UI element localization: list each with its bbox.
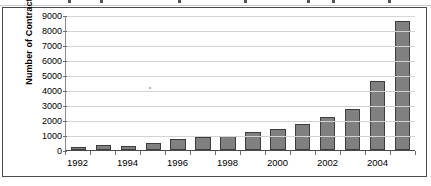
- x-axis-tick: [390, 151, 391, 155]
- bar: [96, 145, 111, 150]
- crop-mark: [244, 0, 247, 3]
- y-axis-tick: [63, 106, 67, 107]
- bar-slot: [116, 16, 141, 150]
- bar: [245, 132, 260, 150]
- x-axis-tick: [90, 151, 91, 155]
- bar-slot: [66, 16, 91, 150]
- x-axis-tick: [290, 151, 291, 155]
- x-tick-label: 2002: [308, 157, 348, 168]
- x-axis-tick: [365, 151, 366, 155]
- y-axis-tick: [63, 136, 67, 137]
- bar: [195, 137, 210, 150]
- plot-area: [65, 16, 415, 151]
- x-axis-tick: [415, 151, 416, 155]
- x-axis-tick-labels: 1992199419961998200020022004: [65, 157, 415, 171]
- bar: [345, 109, 360, 150]
- y-tick-label: 7000: [20, 42, 62, 51]
- bar-slot: [216, 16, 241, 150]
- crop-mark: [68, 0, 71, 3]
- x-axis-tick: [215, 151, 216, 155]
- y-axis-tick: [63, 31, 67, 32]
- x-axis-tick: [165, 151, 166, 155]
- y-axis-tick: [63, 46, 67, 47]
- crop-mark: [100, 0, 103, 3]
- crop-mark: [332, 0, 335, 3]
- x-axis-tick: [315, 151, 316, 155]
- x-axis-tick: [265, 151, 266, 155]
- bar-slot: [315, 16, 340, 150]
- gridline: [66, 61, 415, 62]
- gridline: [66, 106, 415, 107]
- x-tick-label: 1992: [58, 157, 98, 168]
- bar: [121, 146, 136, 150]
- gridline: [66, 31, 415, 32]
- bar: [146, 143, 161, 150]
- y-tick-label: 9000: [20, 12, 62, 21]
- bar-slot: [340, 16, 365, 150]
- bar-slot: [191, 16, 216, 150]
- y-tick-label: 3000: [20, 102, 62, 111]
- x-tick-label: 1996: [158, 157, 198, 168]
- bar-slot: [365, 16, 390, 150]
- y-axis-tick: [63, 61, 67, 62]
- bar-slot: [91, 16, 116, 150]
- y-axis-tick: [63, 16, 67, 17]
- gridline: [66, 16, 415, 17]
- y-axis-tick-labels: 9000800070006000500040003000200010000: [20, 0, 62, 186]
- y-tick-label: 2000: [20, 117, 62, 126]
- y-tick-label: 8000: [20, 27, 62, 36]
- scan-speck: [149, 87, 151, 89]
- x-tick-label: 2004: [358, 157, 398, 168]
- bar-slot: [240, 16, 265, 150]
- x-axis-tick: [190, 151, 191, 155]
- bar-slot: [390, 16, 415, 150]
- cropped-text-strip: [0, 0, 431, 7]
- bar-series: [66, 16, 415, 150]
- x-axis-ticks: [65, 151, 415, 156]
- bar-slot: [141, 16, 166, 150]
- gridline: [66, 121, 415, 122]
- x-axis-tick: [140, 151, 141, 155]
- y-axis-tick: [63, 91, 67, 92]
- crop-rule: [0, 5, 431, 6]
- gridline: [66, 91, 415, 92]
- bar-slot: [265, 16, 290, 150]
- y-tick-label: 6000: [20, 57, 62, 66]
- crop-mark: [178, 0, 181, 3]
- bar: [170, 139, 185, 150]
- y-axis-tick: [63, 121, 67, 122]
- y-tick-label: 4000: [20, 87, 62, 96]
- x-tick-label: 1994: [108, 157, 148, 168]
- x-axis-tick: [115, 151, 116, 155]
- y-tick-label: 5000: [20, 72, 62, 81]
- y-tick-label: 1000: [20, 132, 62, 141]
- x-axis-tick: [240, 151, 241, 155]
- crop-mark: [307, 0, 310, 3]
- bar-slot: [290, 16, 315, 150]
- x-axis-tick: [65, 151, 66, 155]
- gridline: [66, 76, 415, 77]
- y-axis-tick: [63, 76, 67, 77]
- bar: [71, 147, 86, 150]
- crop-mark: [388, 0, 391, 3]
- bar: [395, 21, 410, 150]
- bar: [295, 124, 310, 150]
- bar-slot: [166, 16, 191, 150]
- x-tick-label: 2000: [258, 157, 298, 168]
- gridline: [66, 136, 415, 137]
- chart-figure: Number of Contracts 90008000700060005000…: [0, 0, 431, 186]
- bar: [270, 129, 285, 150]
- x-tick-label: 1998: [208, 157, 248, 168]
- gridline: [66, 46, 415, 47]
- x-axis-tick: [340, 151, 341, 155]
- bar: [220, 136, 235, 150]
- y-tick-label: 0: [20, 147, 62, 156]
